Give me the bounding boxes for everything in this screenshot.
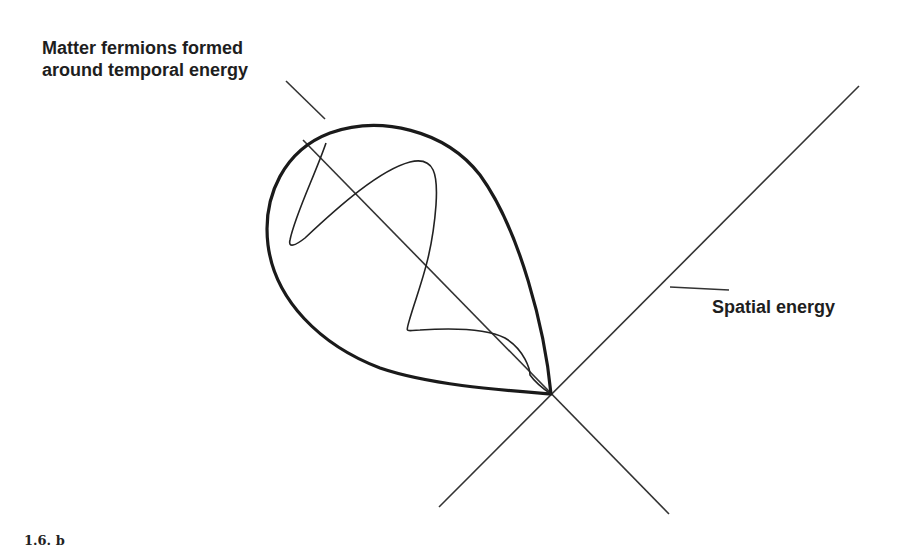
temporal-energy-axis xyxy=(303,140,669,514)
matter-label-line1: Matter fermions formed xyxy=(42,37,248,59)
figure-canvas: Matter fermions formed around temporal e… xyxy=(0,0,902,558)
spatial-label-pointer xyxy=(670,287,729,290)
teardrop-envelope xyxy=(267,126,551,394)
figure-caption: 1.6. b xyxy=(24,533,65,548)
diagram-drawing xyxy=(0,0,902,558)
wave-line xyxy=(290,143,551,394)
spatial-energy-label: Spatial energy xyxy=(712,296,835,318)
matter-label-line2: around temporal energy xyxy=(42,59,248,81)
matter-fermions-label: Matter fermions formed around temporal e… xyxy=(42,37,248,81)
matter-label-pointer xyxy=(286,81,325,119)
